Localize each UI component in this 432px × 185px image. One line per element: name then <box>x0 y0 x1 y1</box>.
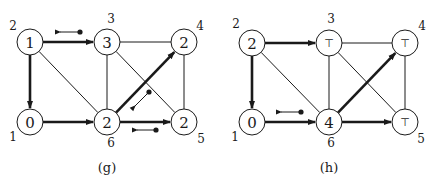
node-id-label: 6 <box>107 136 115 150</box>
edge-2-6 <box>39 51 98 112</box>
node-5: ⊤5 <box>392 109 425 146</box>
node-id-label: 4 <box>196 19 204 33</box>
node-value: ⊤ <box>400 37 410 50</box>
figure-g: 011233242526(g) <box>9 12 205 175</box>
node-id-label: 3 <box>107 12 115 26</box>
node-value: 1 <box>25 34 35 52</box>
node-1: 01 <box>231 109 265 144</box>
node-6: 26 <box>94 109 120 150</box>
figures-layer: 011233242526(g)0122⊤3⊤4⊤546(h) <box>9 12 426 175</box>
node-2: 12 <box>9 19 43 55</box>
node-id-label: 5 <box>197 132 205 146</box>
direction-indicator <box>281 109 304 114</box>
node-5: 25 <box>171 109 205 146</box>
indicator-dot-icon <box>298 109 303 114</box>
node-value: ⊤ <box>400 116 410 129</box>
node-id-label: 1 <box>231 130 239 144</box>
node-3: ⊤3 <box>316 12 342 56</box>
node-3: 33 <box>94 12 120 55</box>
node-value: 2 <box>102 114 112 132</box>
node-4: 24 <box>171 19 204 55</box>
node-id-label: 2 <box>9 19 17 33</box>
indicator-arrow-icon <box>135 92 149 106</box>
node-value: 2 <box>179 34 189 52</box>
node-value: ⊤ <box>324 37 334 50</box>
node-2: 22 <box>232 17 265 56</box>
node-value: 2 <box>179 114 189 132</box>
node-1: 01 <box>9 109 43 144</box>
node-value: 3 <box>102 34 112 52</box>
node-value: 4 <box>324 114 334 132</box>
node-id-label: 3 <box>327 12 335 26</box>
node-4: ⊤4 <box>392 19 426 56</box>
node-id-label: 6 <box>327 136 335 150</box>
node-id-label: 5 <box>417 132 425 146</box>
node-id-label: 1 <box>9 130 17 144</box>
indicator-dot-icon <box>153 127 158 132</box>
node-value: 0 <box>247 114 257 132</box>
node-value: 0 <box>25 114 35 132</box>
direction-indicator <box>137 127 159 132</box>
node-id-label: 4 <box>418 19 426 33</box>
figure-h: 0122⊤3⊤4⊤546(h) <box>231 12 426 175</box>
direction-indicator <box>60 29 83 34</box>
figure-caption: (h) <box>320 160 339 175</box>
figure-caption: (g) <box>98 160 116 175</box>
edge-2-6 <box>261 52 320 112</box>
node-value: 2 <box>247 35 257 53</box>
node-6: 46 <box>316 109 342 150</box>
graph-diagram-canvas: 011233242526(g)0122⊤3⊤4⊤546(h) <box>0 0 432 185</box>
indicator-dot-icon <box>146 89 151 94</box>
indicator-dot-icon <box>77 29 82 34</box>
node-id-label: 2 <box>232 17 240 31</box>
